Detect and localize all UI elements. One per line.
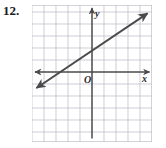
- x-axis-label: x: [141, 73, 147, 84]
- y-axis-label: y: [94, 8, 100, 19]
- origin-label: O: [84, 74, 91, 85]
- graph-canvas: O y x: [32, 5, 152, 142]
- graph-figure: 12.: [0, 0, 166, 148]
- problem-number-label: 12.: [3, 4, 19, 18]
- coordinate-grid: O y x: [32, 5, 152, 142]
